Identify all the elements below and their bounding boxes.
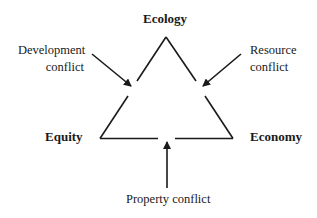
edge-ecology-economy-upper	[166, 37, 196, 81]
development-conflict-line1: Development	[18, 42, 84, 59]
edge-ecology-equity-upper	[137, 37, 166, 81]
node-economy: Economy	[250, 128, 302, 145]
property-conflict-label: Property conflict	[126, 191, 210, 208]
edge-ecology-economy-lower	[205, 96, 233, 139]
resource-conflict-line2: conflict	[250, 59, 297, 76]
resource-conflict-arrow	[203, 54, 241, 86]
development-conflict-label: Development conflict	[18, 42, 84, 76]
triangle-diagram	[0, 0, 317, 218]
resource-conflict-label: Resource conflict	[250, 42, 297, 76]
edge-ecology-equity-lower	[100, 96, 128, 139]
development-conflict-arrow	[92, 54, 131, 86]
node-ecology: Ecology	[143, 10, 187, 27]
resource-conflict-line1: Resource	[250, 42, 297, 59]
development-conflict-line2: conflict	[18, 59, 84, 76]
node-equity: Equity	[45, 128, 83, 145]
